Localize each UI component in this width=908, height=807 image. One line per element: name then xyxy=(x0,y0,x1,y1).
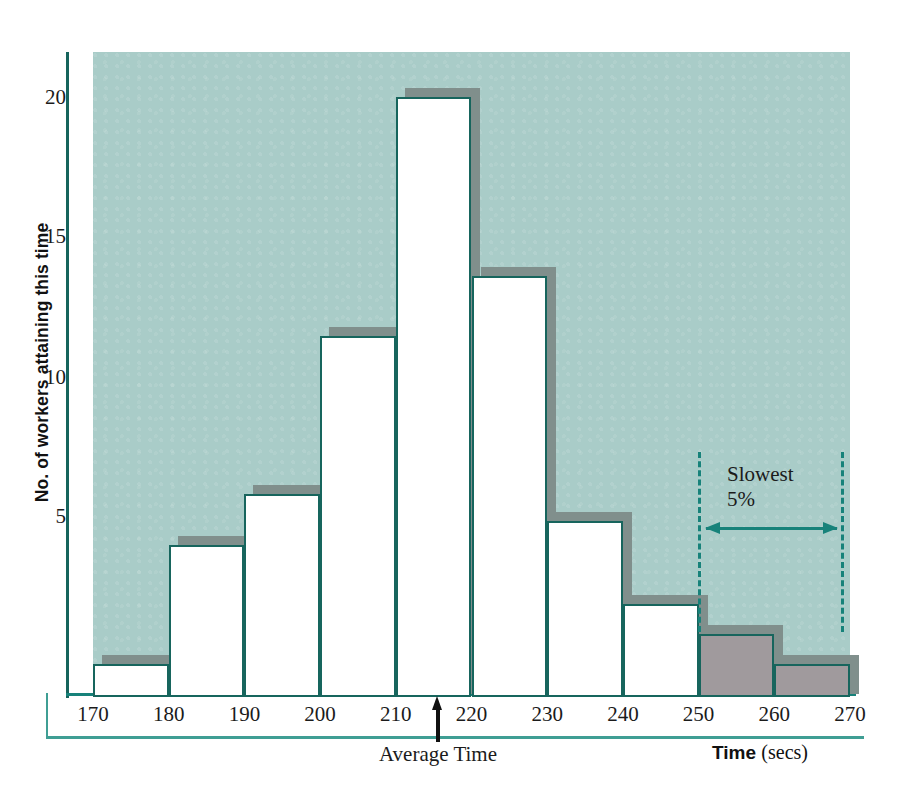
y-axis-line xyxy=(66,52,69,698)
bar[interactable] xyxy=(699,634,775,697)
x-tick-190: 190 xyxy=(214,702,274,727)
annotation-text-line1: Slowest xyxy=(727,462,877,487)
x-axis-frame-bottom xyxy=(46,736,864,739)
x-tick-240: 240 xyxy=(593,702,653,727)
bar[interactable] xyxy=(547,521,623,697)
x-axis-title-main: Time xyxy=(712,742,756,763)
bar[interactable] xyxy=(169,545,245,697)
bar[interactable] xyxy=(396,97,472,697)
x-tick-230: 230 xyxy=(517,702,577,727)
arrow-stem xyxy=(436,706,440,742)
bar-series xyxy=(93,52,850,694)
annotation-dashed-line-left xyxy=(698,452,701,632)
y-axis-tick-labels: 20 15 10 5 xyxy=(22,0,66,807)
y-tick-20: 20 xyxy=(32,85,66,110)
annotation-text-line2: 5% xyxy=(727,487,877,512)
x-tick-250: 250 xyxy=(669,702,729,727)
x-axis-tick-labels: 170180190200210220230240250260270 xyxy=(0,700,908,736)
arrow-head-right-icon xyxy=(823,522,838,534)
average-time-arrow-icon xyxy=(432,696,443,742)
arrow-head-left-icon xyxy=(705,522,720,534)
x-tick-260: 260 xyxy=(744,702,804,727)
y-tick-5: 5 xyxy=(32,504,66,529)
y-tick-15: 15 xyxy=(32,224,66,249)
x-tick-180: 180 xyxy=(139,702,199,727)
x-tick-200: 200 xyxy=(290,702,350,727)
x-tick-170: 170 xyxy=(63,702,123,727)
bar[interactable] xyxy=(244,494,320,697)
bar[interactable] xyxy=(320,336,396,697)
average-time-label: Average Time xyxy=(318,742,558,767)
bar[interactable] xyxy=(623,604,699,697)
bar[interactable] xyxy=(93,664,169,697)
bar[interactable] xyxy=(472,276,548,697)
x-tick-210: 210 xyxy=(366,702,426,727)
x-axis-title: Time (secs) xyxy=(640,740,880,765)
x-tick-220: 220 xyxy=(442,702,502,727)
bar[interactable] xyxy=(774,664,850,697)
annotation-text: Slowest 5% xyxy=(727,462,877,512)
x-axis-title-unit: (secs) xyxy=(761,741,808,763)
annotation-arrow-line xyxy=(706,527,837,530)
histogram-figure: No. of workers attaining this time 20 15… xyxy=(0,0,908,807)
y-tick-10: 10 xyxy=(32,365,66,390)
x-tick-270: 270 xyxy=(820,702,880,727)
